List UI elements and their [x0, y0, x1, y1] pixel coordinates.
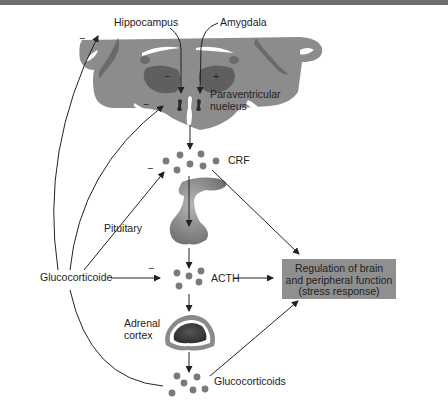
crf-dots	[163, 151, 220, 174]
glucocorticoide-label: Glucocorticoide	[40, 271, 113, 283]
amygdala-excite-sign: +	[213, 70, 219, 82]
adrenal-label-line1: Adrenal	[124, 317, 160, 329]
pvn-label-line1: Paraventricular	[210, 88, 281, 100]
box-line3: (stress response)	[298, 285, 379, 297]
acth-dots	[174, 268, 205, 290]
box-line1: Regulation of brain	[295, 262, 383, 274]
hippocampus-feedback-sign: −	[79, 32, 85, 44]
glucocorticoids-label: Glucocorticoids	[214, 375, 286, 387]
hippocampus-inhibit-sign: −	[164, 70, 170, 82]
hippocampus-label: Hippocampus	[114, 16, 178, 28]
crf-label: CRF	[228, 154, 250, 166]
pituitary-gland	[170, 178, 227, 245]
amygdala-label: Amygdala	[220, 16, 267, 28]
glucocorticoid-dots	[169, 373, 209, 397]
hpa-axis-diagram: − + − − Hippocampus Amygdala Paraventric…	[0, 0, 448, 410]
pvn-label-line2: nueleus	[210, 100, 247, 112]
crf-feedback-sign: −	[147, 162, 153, 174]
pvn-feedback-sign: −	[143, 98, 149, 110]
acth-feedback-sign: −	[148, 262, 154, 274]
pituitary-label: Pituitary	[104, 222, 143, 234]
box-line2: and peripheral function	[286, 274, 393, 286]
adrenal-cortex	[165, 315, 215, 351]
adrenal-label-line2: cortex	[124, 329, 153, 341]
